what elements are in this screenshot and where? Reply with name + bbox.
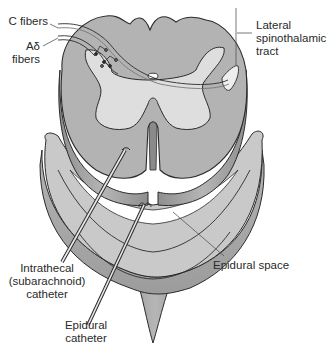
- spinal-cord: [59, 16, 247, 206]
- label-epidural-catheter-line2: catheter: [56, 332, 116, 345]
- label-intrathecal-line1: Intrathecal: [4, 262, 90, 275]
- label-epidural-catheter-line1: Epidural: [56, 319, 116, 332]
- label-intrathecal-line2: (subarachnoid): [4, 275, 90, 288]
- label-intrathecal-line3: catheter: [4, 288, 90, 301]
- label-a-delta-line1: Aδ: [2, 40, 40, 53]
- label-lateral-line3: tract: [256, 45, 278, 58]
- label-a-delta-line2: fibers: [2, 53, 40, 66]
- label-lateral-line2: spinothalamic: [256, 32, 326, 45]
- label-lateral-line1: Lateral: [256, 19, 291, 32]
- spinal-cord-diagram: C fibers Aδ fibers Lateral spinothalamic…: [0, 0, 333, 350]
- label-epidural-space: Epidural space: [213, 259, 289, 272]
- median-fissure: [149, 122, 157, 170]
- label-c-fibers: C fibers: [2, 15, 48, 28]
